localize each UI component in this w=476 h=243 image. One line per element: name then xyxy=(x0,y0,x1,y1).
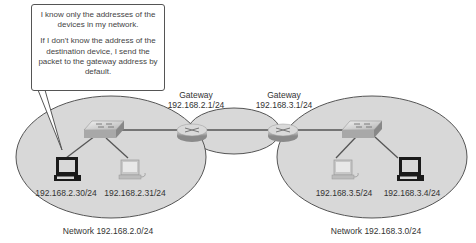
pc-icon-highlighted xyxy=(397,157,424,181)
gateway-label-left: Gateway 192.168.2.1/24 xyxy=(166,90,226,110)
host-address: 192.168.2.31/24 xyxy=(103,188,167,198)
gateway-title: Gateway xyxy=(166,90,226,100)
callout-text-2: If I don't know the address of the desti… xyxy=(36,36,160,77)
gateway-address: 192.168.2.1/24 xyxy=(166,100,226,110)
router-icon xyxy=(177,124,207,142)
network-ellipse-left xyxy=(16,96,206,218)
switch-icon xyxy=(342,121,382,138)
gateway-title: Gateway xyxy=(254,90,314,100)
switch-icon xyxy=(84,121,124,138)
network-ellipse-right xyxy=(277,96,467,218)
host-address: 192.168.3.5/24 xyxy=(314,188,374,198)
router-icon xyxy=(268,124,298,142)
host-address: 192.168.3.4/24 xyxy=(382,188,442,198)
gateway-label-right: Gateway 192.168.3.1/24 xyxy=(254,90,314,110)
pc-icon-highlighted xyxy=(54,157,81,181)
network-label-left: Network 192.168.2.0/24 xyxy=(58,226,158,236)
gateway-address: 192.168.3.1/24 xyxy=(254,100,314,110)
network-label-right: Network 192.168.3.0/24 xyxy=(326,226,426,236)
host-address: 192.168.2.30/24 xyxy=(34,188,98,198)
callout-box: I know only the addresses of the devices… xyxy=(31,4,165,91)
callout-text-1: I know only the addresses of the devices… xyxy=(36,10,160,30)
